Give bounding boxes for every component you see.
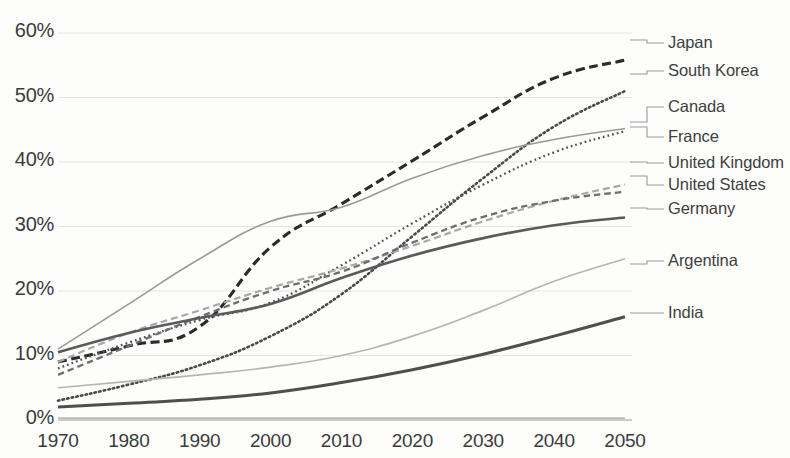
y-tick-label: 60%: [0, 19, 54, 42]
series-line-japan: [58, 60, 625, 362]
legend-label-canada[interactable]: Canada: [668, 97, 725, 116]
legend-label-france[interactable]: France: [668, 127, 719, 146]
legend-label-united-states[interactable]: United States: [668, 175, 766, 194]
legend-label-united-kingdom[interactable]: United Kingdom: [668, 153, 784, 172]
legend-label-japan[interactable]: Japan: [668, 33, 712, 52]
series-lines: [58, 60, 625, 418]
series-line-south-korea: [58, 91, 625, 401]
legend-leader-line: [630, 107, 664, 122]
line-chart: 0%10%20%30%40%50%60% 1970198019902000201…: [0, 0, 790, 458]
x-tick-label: 2040: [533, 430, 574, 452]
x-tick-label: 2000: [250, 430, 291, 452]
legend-leader-lines: [630, 40, 664, 313]
x-tick-label: 1980: [108, 430, 149, 452]
x-tick-label: 2050: [604, 430, 645, 452]
legend-leader-line: [630, 71, 664, 74]
legend-leader-line: [630, 176, 664, 185]
legend-label-germany[interactable]: Germany: [668, 199, 735, 218]
legend-leader-line: [630, 208, 664, 209]
series-line-germany: [58, 217, 625, 352]
legend-label-india[interactable]: India: [668, 303, 703, 322]
y-tick-label: 0%: [0, 406, 54, 429]
y-tick-label: 40%: [0, 148, 54, 171]
legend-leader-line: [630, 162, 664, 163]
x-tick-label: 2020: [392, 430, 433, 452]
series-line-united-kingdom: [58, 185, 625, 362]
series-line-united-states: [58, 192, 625, 375]
y-tick-label: 50%: [0, 84, 54, 107]
y-tick-label: 10%: [0, 342, 54, 365]
legend-label-south-korea[interactable]: South Korea: [668, 61, 759, 80]
y-tick-label: 20%: [0, 277, 54, 300]
series-line-france: [58, 131, 625, 368]
x-tick-label: 2030: [463, 430, 504, 452]
x-tick-label: 1970: [37, 430, 78, 452]
y-tick-label: 30%: [0, 213, 54, 236]
legend-label-argentina[interactable]: Argentina: [668, 251, 738, 270]
x-tick-label: 1990: [179, 430, 220, 452]
legend-leader-line: [630, 127, 664, 137]
x-tick-label: 2010: [321, 430, 362, 452]
legend-leader-line: [630, 40, 664, 43]
legend-leader-line: [630, 261, 664, 264]
